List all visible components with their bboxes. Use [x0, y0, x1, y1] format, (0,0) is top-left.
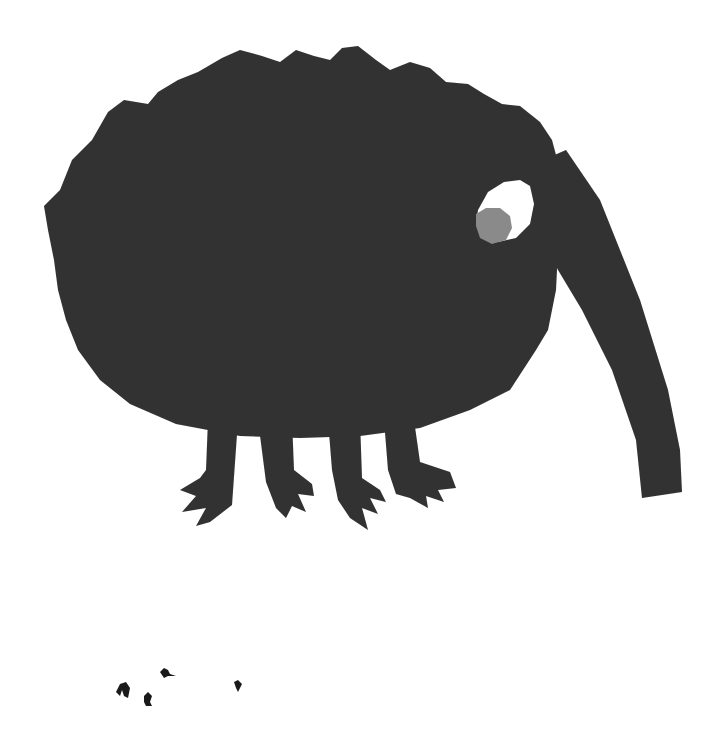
pupil [476, 208, 512, 244]
leg-1 [180, 420, 238, 526]
small-figure-4 [234, 680, 242, 692]
small-figure-3 [160, 668, 176, 678]
leg-4 [384, 420, 456, 508]
small-figures [116, 668, 242, 706]
shaggy-body [44, 46, 562, 438]
illustration-canvas [0, 0, 727, 737]
small-figure-2 [144, 692, 152, 706]
small-figure-1 [116, 682, 130, 698]
creature-illustration [0, 0, 727, 737]
